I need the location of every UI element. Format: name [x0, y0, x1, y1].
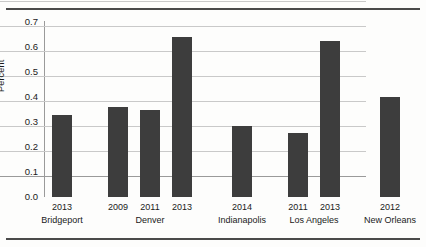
x-group-label-denver: Denver	[130, 215, 170, 226]
bar-chart-figure: 0.7 0.6 0.5 0.4 0.3 0.2 0.1 0.0 Percent …	[0, 0, 426, 247]
x-tick-bridgeport-2013: 2013	[42, 202, 82, 213]
x-group-label-los-angeles: Los Angeles	[284, 215, 344, 226]
x-tick-los-angeles-2013: 2013	[310, 202, 350, 213]
x-group-label-bridgeport: Bridgeport	[32, 215, 92, 226]
x-tick-denver-2013: 2013	[162, 202, 202, 213]
x-tick-indianapolis-2014: 2014	[222, 202, 262, 213]
x-group-label-new-orleans: New Orleans	[360, 215, 420, 226]
x-axis-labels: 2013 2009 2011 2013 2014 2011 2013 2012 …	[0, 0, 426, 247]
x-group-label-indianapolis: Indianapolis	[212, 215, 272, 226]
x-tick-new-orleans-2012: 2012	[370, 202, 410, 213]
